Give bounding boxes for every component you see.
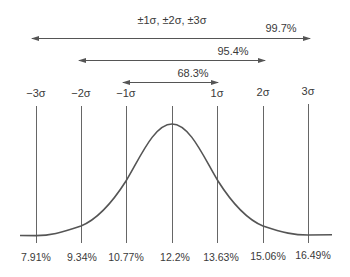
x-tick-label: 10.77%: [108, 251, 144, 263]
x-tick-label: 9.34%: [67, 251, 97, 263]
chart-svg: ±1σ, ±2σ, ±3σ 99.7% 95.4% 68.3% −3σ −2σ …: [0, 0, 350, 277]
bell-curve: [20, 124, 332, 236]
sigma-labels: −3σ −2σ −1σ 1σ 2σ 3σ: [26, 85, 314, 99]
range-label-95-4: 95.4%: [217, 45, 248, 57]
range-95-4: 95.4%: [79, 45, 265, 61]
range-label-99-7: 99.7%: [265, 22, 296, 34]
x-tick-label: 12.2%: [160, 251, 190, 263]
sigma-label: −1σ: [116, 87, 136, 99]
sigma-label: 3σ: [302, 85, 315, 97]
x-tick-label: 7.91%: [21, 251, 51, 263]
x-tick-label: 15.06%: [250, 250, 286, 262]
x-tick-label: 16.49%: [295, 249, 331, 261]
range-label-68-3: 68.3%: [177, 67, 208, 79]
sigma-label: −2σ: [71, 87, 91, 99]
range-68-3: 68.3%: [123, 67, 218, 83]
sigma-label: 2σ: [257, 86, 270, 98]
sigma-label: 1σ: [211, 87, 224, 99]
normal-distribution-chart: ±1σ, ±2σ, ±3σ 99.7% 95.4% 68.3% −3σ −2σ …: [0, 0, 350, 277]
chart-title: ±1σ, ±2σ, ±3σ: [137, 14, 206, 26]
sigma-label: −3σ: [26, 87, 46, 99]
x-axis-labels: 7.91% 9.34% 10.77% 12.2% 13.63% 15.06% 1…: [21, 249, 331, 263]
sigma-lines: [37, 104, 309, 243]
x-tick-label: 13.63%: [203, 251, 239, 263]
